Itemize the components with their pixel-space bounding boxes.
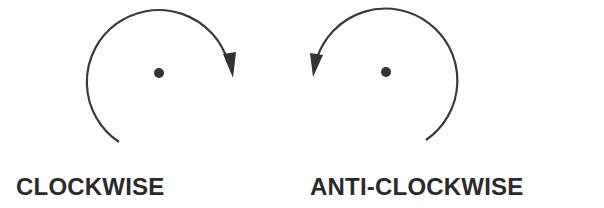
clockwise-label: CLOCKWISE bbox=[16, 175, 164, 199]
anticlockwise-label: ANTI-CLOCKWISE bbox=[310, 175, 523, 199]
clockwise-center-dot bbox=[154, 68, 164, 78]
anticlockwise-figure bbox=[310, 9, 457, 140]
anticlockwise-arrowhead-icon bbox=[310, 53, 323, 77]
anticlockwise-center-dot bbox=[381, 67, 391, 77]
clockwise-arrowhead-icon bbox=[223, 52, 236, 78]
clockwise-figure bbox=[87, 10, 236, 142]
